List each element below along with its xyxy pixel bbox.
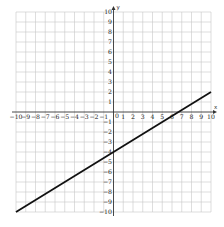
x-tick-label: 5 — [160, 113, 164, 120]
x-tick-label: 9 — [199, 113, 203, 120]
x-tick-label: 8 — [190, 113, 194, 120]
y-tick-label: 10 — [104, 8, 112, 15]
x-tick-label: −6 — [50, 113, 59, 120]
x-tick-label: −2 — [89, 113, 98, 120]
coordinate-plane: xy −10−9−8−7−6−5−4−3−2−112345678910−10−9… — [0, 0, 224, 227]
y-axis-arrow-icon — [112, 6, 116, 10]
x-tick-label: 10 — [207, 113, 215, 120]
y-tick-label: −7 — [103, 178, 112, 185]
y-tick-label: −3 — [103, 138, 112, 145]
x-tick-label: −5 — [60, 113, 69, 120]
y-tick-label: 2 — [108, 88, 112, 95]
x-tick-label: 7 — [180, 113, 184, 120]
y-tick-label: −2 — [103, 128, 112, 135]
y-tick-label: 7 — [108, 38, 112, 45]
x-tick-label: 3 — [141, 113, 145, 120]
x-tick-label: −9 — [21, 113, 30, 120]
x-tick-label: −7 — [41, 113, 50, 120]
x-tick-label: 4 — [151, 113, 155, 120]
y-tick-label: −8 — [103, 188, 112, 195]
y-axis-label: y — [117, 4, 121, 11]
x-tick-label: −3 — [80, 113, 89, 120]
y-tick-label: 5 — [108, 58, 112, 65]
x-tick-label: 2 — [131, 113, 135, 120]
y-tick-label: 4 — [108, 68, 112, 75]
x-tick-label: −4 — [70, 113, 79, 120]
x-axis-label: x — [214, 104, 218, 110]
y-tick-label: −10 — [99, 208, 112, 215]
y-tick-label: −5 — [103, 158, 112, 165]
origin-label: 0 — [115, 112, 119, 119]
y-tick-label: 3 — [108, 78, 112, 85]
x-tick-label: 1 — [121, 113, 125, 120]
x-tick-label: −8 — [31, 113, 40, 120]
y-tick-label: 9 — [108, 18, 112, 25]
y-tick-label: 8 — [108, 28, 112, 35]
y-tick-label: −6 — [103, 168, 112, 175]
y-tick-label: −1 — [103, 118, 112, 125]
y-tick-label: 6 — [108, 48, 112, 55]
y-tick-label: −9 — [103, 198, 112, 205]
y-tick-label: 1 — [108, 98, 112, 105]
axes: xy — [12, 4, 218, 216]
